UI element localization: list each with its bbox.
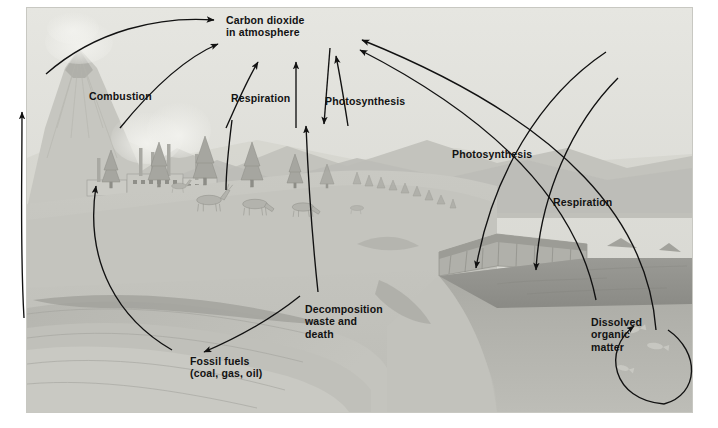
arrow-combustion-to-co2 xyxy=(120,44,218,128)
arrow-tail-tree-a xyxy=(226,120,232,190)
label-text: Photosynthesis xyxy=(325,95,405,107)
arrow-decomp-to-fossil xyxy=(204,296,300,352)
label-text: Respiration xyxy=(231,92,290,104)
arrow-fossil-to-combustion-a xyxy=(22,112,25,318)
label-text: Decomposition waste and death xyxy=(305,303,383,340)
arrow-fossil-to-combustion-b xyxy=(94,186,172,350)
label-text: Combustion xyxy=(89,90,152,102)
label-text: Respiration xyxy=(553,196,612,208)
arrow-volcano-to-co2 xyxy=(46,19,214,74)
label-text: Photosynthesis xyxy=(452,148,532,160)
carbon-cycle-figure: Carbon dioxide in atmosphere Combustion … xyxy=(0,0,718,428)
arrow-water-photosynthesis-2 xyxy=(536,78,618,270)
label-text: Fossil fuels (coal, gas, oil) xyxy=(190,355,262,380)
flow-arrows-layer xyxy=(0,0,718,428)
arrow-tail-water-loop xyxy=(664,330,692,404)
arrow-ocean-respiration-a xyxy=(360,50,596,300)
arrow-photosynthesis-up xyxy=(336,56,348,126)
label-text: Dissolved organic matter xyxy=(591,316,642,353)
label-text: Carbon dioxide in atmosphere xyxy=(226,14,305,39)
arrow-decomp-to-co2-b xyxy=(306,126,318,292)
arrow-photosynthesis-down-a xyxy=(324,48,330,124)
